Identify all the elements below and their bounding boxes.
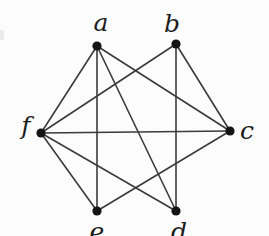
node-b	[171, 39, 180, 48]
edge-c-e	[97, 131, 230, 211]
node-label-f: f	[19, 111, 34, 140]
graph-canvas: abcdef	[0, 0, 269, 236]
node-d	[171, 206, 180, 215]
node-a	[92, 41, 101, 50]
edge-a-f	[41, 46, 97, 133]
graph-figure: abcdef	[0, 0, 269, 236]
edge-b-c	[176, 44, 230, 131]
edge-d-f	[41, 133, 176, 211]
node-label-b: b	[164, 9, 180, 38]
edge-c-f	[41, 131, 230, 133]
node-label-e: e	[90, 217, 105, 236]
edge-b-f	[41, 44, 176, 133]
node-e	[92, 206, 101, 215]
node-label-c: c	[240, 116, 254, 145]
node-label-a: a	[94, 8, 109, 37]
scan-artifact	[0, 30, 4, 40]
node-label-d: d	[171, 217, 187, 236]
node-f	[36, 128, 45, 137]
node-c	[225, 126, 234, 135]
edge-e-f	[41, 133, 97, 211]
